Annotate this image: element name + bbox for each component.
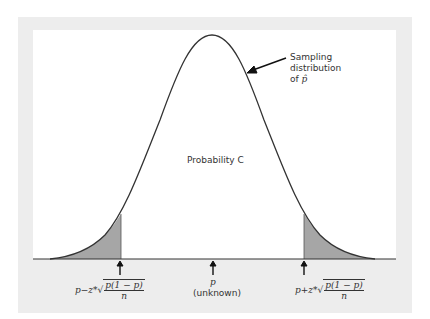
probability-c-label: Probability C: [187, 155, 244, 166]
center-label: p (unknown): [193, 277, 233, 299]
annotation-line-3: of p̂: [290, 74, 341, 85]
upper-bound-formula: p + z* √ p(1 − p) n: [295, 279, 365, 301]
lower-denominator: n: [104, 290, 144, 301]
center-arrow: [210, 261, 216, 275]
right-bound-arrow: [301, 261, 307, 275]
lower-fraction: p(1 − p) n: [103, 279, 145, 301]
p-hat-symbol: p̂: [302, 74, 308, 84]
left-tail-area: [50, 214, 121, 259]
annotation-of: of: [290, 74, 302, 84]
right-tail-area: [304, 214, 375, 259]
upper-fraction: p(1 − p) n: [323, 279, 365, 301]
left-bound-arrow: [117, 261, 123, 275]
annotation-line-2: distribution: [290, 63, 341, 74]
annotation-line-1: Sampling: [290, 52, 341, 63]
lower-bound-formula: p − z* √ p(1 − p) n: [75, 279, 145, 301]
center-p-symbol: p: [193, 277, 233, 288]
lower-z-star: z*: [88, 285, 97, 295]
sampling-distribution-annotation: Sampling distribution of p̂: [290, 52, 341, 85]
annotation-arrow: [247, 58, 286, 73]
upper-denominator: n: [324, 290, 364, 301]
center-unknown: (unknown): [193, 288, 233, 299]
upper-z-star: z*: [308, 285, 317, 295]
lower-numerator: p(1 − p): [104, 280, 144, 290]
upper-numerator: p(1 − p): [324, 280, 364, 290]
